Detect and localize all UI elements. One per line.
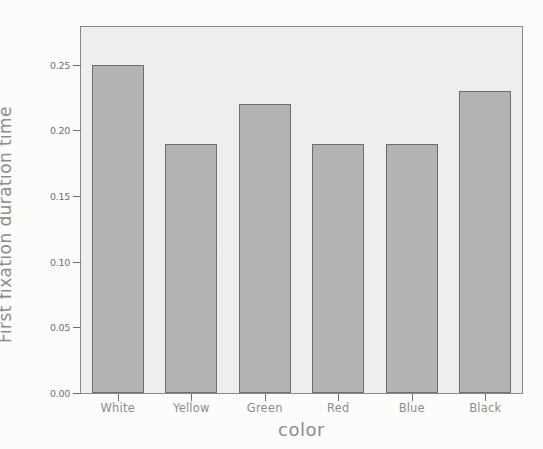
- x-tick-mark: [265, 394, 266, 401]
- x-tick-label-black: Black: [440, 401, 530, 415]
- bar-rect: [459, 91, 511, 393]
- bar-rect: [312, 144, 364, 393]
- x-tick-mark: [118, 394, 119, 401]
- y-tick-label: 0.00: [22, 388, 70, 399]
- y-tick-mark: [73, 196, 81, 197]
- y-tick-mark: [73, 393, 81, 394]
- y-tick-label: 0.05: [22, 322, 70, 333]
- bar-chart-figure: First fixation duration time 0.000.050.1…: [0, 0, 543, 449]
- bar-rect: [239, 104, 291, 393]
- bar-rect: [386, 144, 438, 393]
- y-tick-label: 0.20: [22, 125, 70, 136]
- x-tick-mark: [338, 394, 339, 401]
- y-tick-label: 0.15: [22, 191, 70, 202]
- x-tick-mark: [412, 394, 413, 401]
- y-tick-mark: [73, 327, 81, 328]
- x-tick-mark: [485, 394, 486, 401]
- y-tick-mark: [73, 262, 81, 263]
- x-tick-mark: [191, 394, 192, 401]
- y-tick-mark: [73, 65, 81, 66]
- bars-group: [81, 27, 522, 393]
- x-axis-title: color: [80, 419, 523, 440]
- bar-rect: [165, 144, 217, 393]
- bar-rect: [92, 65, 144, 393]
- y-tick-label: 0.25: [22, 59, 70, 70]
- y-tick-mark: [73, 130, 81, 131]
- y-tick-label: 0.10: [22, 256, 70, 267]
